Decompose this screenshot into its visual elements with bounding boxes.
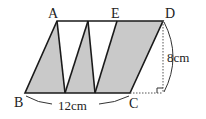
label-d: D — [165, 6, 175, 21]
shaded-triangle-middle — [65, 21, 95, 93]
base-brace-left — [26, 96, 52, 104]
label-a: A — [48, 6, 59, 21]
base-brace-right — [99, 96, 129, 104]
base-label: 12cm — [58, 98, 87, 113]
height-label: 8cm — [167, 50, 189, 65]
parallelogram-diagram: A E D B C 8cm 12cm — [0, 0, 206, 119]
right-angle-mark — [157, 88, 163, 93]
label-e: E — [111, 6, 120, 21]
label-b: B — [14, 95, 23, 110]
label-c: C — [129, 96, 138, 111]
